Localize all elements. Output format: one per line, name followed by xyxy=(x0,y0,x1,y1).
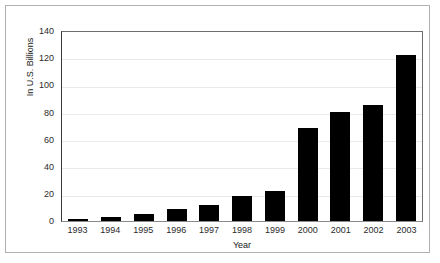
bar-slot xyxy=(127,32,160,221)
bar xyxy=(298,128,318,221)
bar-slot xyxy=(62,32,95,221)
x-axis-tick-label: 2002 xyxy=(357,226,390,235)
bar-slot xyxy=(193,32,226,221)
bar xyxy=(134,214,154,221)
y-axis-title: In U.S. Billions xyxy=(25,0,35,147)
x-axis-tick-label: 1999 xyxy=(258,226,291,235)
plot-area xyxy=(61,31,423,222)
bar-slot xyxy=(324,32,357,221)
bar xyxy=(330,112,350,221)
y-axis-tick-label: 140 xyxy=(10,27,54,36)
x-axis-tick-labels: 1993199419951996199719981999200020012002… xyxy=(61,226,423,235)
bar xyxy=(232,196,252,221)
y-axis-tick-label: 0 xyxy=(10,217,54,226)
bar xyxy=(363,105,383,221)
bar xyxy=(167,209,187,221)
y-axis-tick-label: 60 xyxy=(10,136,54,145)
bar xyxy=(101,217,121,221)
bar-slot xyxy=(357,32,390,221)
bar xyxy=(199,205,219,221)
chart-frame: In U.S. Billions 140 120 100 80 60 40 20… xyxy=(5,5,430,253)
bar-slot xyxy=(291,32,324,221)
bar-slot xyxy=(258,32,291,221)
bar-slot xyxy=(226,32,259,221)
x-axis-tick-label: 1993 xyxy=(61,226,94,235)
x-axis-tick-label: 2001 xyxy=(324,226,357,235)
x-axis-tick-label: 1995 xyxy=(127,226,160,235)
bar-slot xyxy=(160,32,193,221)
bar xyxy=(396,55,416,221)
y-axis-tick-label: 120 xyxy=(10,54,54,63)
bar xyxy=(265,191,285,221)
x-axis-tick-label: 1998 xyxy=(226,226,259,235)
bar-series xyxy=(62,32,422,221)
bar-slot xyxy=(389,32,422,221)
y-axis-tick-label: 20 xyxy=(10,190,54,199)
x-axis-tick-label: 2003 xyxy=(390,226,423,235)
x-axis-tick-label: 1997 xyxy=(193,226,226,235)
x-axis-tick-label: 1994 xyxy=(94,226,127,235)
x-axis-tick-label: 1996 xyxy=(160,226,193,235)
y-axis-tick-label: 80 xyxy=(10,109,54,118)
y-axis-tick-label: 100 xyxy=(10,81,54,90)
x-axis-title: Year xyxy=(61,240,423,250)
x-axis-tick-label: 2000 xyxy=(291,226,324,235)
bar-slot xyxy=(95,32,128,221)
y-axis-tick-label: 40 xyxy=(10,163,54,172)
bar xyxy=(68,219,88,221)
